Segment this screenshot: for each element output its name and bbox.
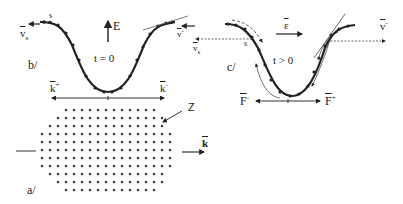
lattice-dot (113, 117, 115, 119)
lattice-dot (129, 149, 131, 151)
lattice-dot (137, 125, 139, 127)
lattice-dot (41, 141, 43, 143)
lattice-dot (169, 141, 171, 143)
velocity-sub: s (26, 34, 29, 42)
lattice-dot (49, 125, 51, 127)
lattice-dot (81, 109, 83, 111)
force-symbol: F (325, 94, 332, 108)
lattice-dot (49, 165, 51, 167)
lattice-dot (89, 149, 91, 151)
lattice-dot (113, 181, 115, 183)
force-plus-label: F+ (325, 95, 336, 107)
force-sup: - (247, 94, 249, 102)
lattice-dot (153, 133, 155, 135)
lattice-dot (161, 157, 163, 159)
lattice-dot (113, 133, 115, 135)
lattice-dot (145, 117, 147, 119)
lattice-dot (97, 181, 99, 183)
velocity-vminus-label-c: v- (380, 20, 388, 32)
lattice-dot (129, 165, 131, 167)
lattice-dot (105, 189, 107, 191)
lattice-dot (113, 109, 115, 111)
lattice-dot (65, 109, 67, 111)
lattice-dot (113, 165, 115, 167)
force-sup: + (332, 94, 336, 102)
panel-b-label: b/ (28, 59, 37, 71)
lattice-dot (137, 173, 139, 175)
lattice-dot (57, 125, 59, 127)
lattice-dot (73, 133, 75, 135)
lattice-dot (97, 109, 99, 111)
lattice-dot (89, 133, 91, 135)
lattice-dot (105, 149, 107, 151)
point-s-label-b: s (49, 12, 52, 20)
lattice-dot (97, 133, 99, 135)
lattice-dot (121, 125, 123, 127)
panel-a-axes (16, 111, 204, 152)
k-minus-label: k- (160, 82, 168, 94)
lattice-dot (105, 181, 107, 183)
lattice-dot (73, 109, 75, 111)
time-label-c: t > 0 (273, 55, 293, 66)
lattice-dot (57, 165, 59, 167)
panel-c-label: c/ (227, 61, 236, 73)
lattice-dot (113, 125, 115, 127)
lattice-dot (97, 165, 99, 167)
lattice-dot (153, 181, 155, 183)
band-diagram (0, 0, 403, 204)
lattice-dot (97, 189, 99, 191)
k-sup: + (56, 81, 60, 89)
lattice-dot (121, 149, 123, 151)
lattice-dot (145, 125, 147, 127)
lattice-dot (49, 133, 51, 135)
lattice-dot (73, 157, 75, 159)
lattice-dot (41, 149, 43, 151)
force-symbol: F (240, 94, 247, 108)
lattice-dot (73, 165, 75, 167)
lattice-dot (73, 117, 75, 119)
lattice-dot (145, 173, 147, 175)
lattice-dot (137, 165, 139, 167)
k-plus-label: k+ (50, 82, 59, 94)
lattice-dot (97, 157, 99, 159)
fermi-surface-label-z: Z (188, 102, 195, 113)
lattice-dot (137, 181, 139, 183)
lattice-dot (49, 149, 51, 151)
lattice-dot (105, 109, 107, 111)
lattice-dot (73, 181, 75, 183)
lattice-dot (81, 165, 83, 167)
wavevector-k-label: k (202, 138, 208, 149)
lattice-dot (97, 141, 99, 143)
velocity-sup: - (386, 19, 388, 27)
lattice-dot (153, 173, 155, 175)
lattice-dot (81, 181, 83, 183)
lattice-dot (65, 173, 67, 175)
lattice-dot (137, 157, 139, 159)
lattice-dot (113, 149, 115, 151)
k-sup: - (166, 81, 168, 89)
lattice-dot (105, 165, 107, 167)
lattice-dot (73, 125, 75, 127)
lattice-dot (129, 133, 131, 135)
lattice-dot (129, 109, 131, 111)
lattice-dot (57, 149, 59, 151)
lattice-dot (89, 125, 91, 127)
lattice-dot (65, 181, 67, 183)
lattice-dot (65, 141, 67, 143)
velocity-sup: - (182, 27, 184, 35)
lattice-dot (81, 157, 83, 159)
lattice-dot (161, 165, 163, 167)
lattice-dot (153, 149, 155, 151)
lattice-dot (153, 157, 155, 159)
lattice-dot (57, 173, 59, 175)
lattice-dot (89, 173, 91, 175)
lattice-dot (49, 157, 51, 159)
lattice-dot (89, 109, 91, 111)
lattice-dot (57, 133, 59, 135)
lattice-dot (137, 133, 139, 135)
lattice-dot (81, 133, 83, 135)
lattice-dot (105, 141, 107, 143)
lattice-dot (89, 157, 91, 159)
lattice-dot (49, 141, 51, 143)
lattice-dot (169, 165, 171, 167)
